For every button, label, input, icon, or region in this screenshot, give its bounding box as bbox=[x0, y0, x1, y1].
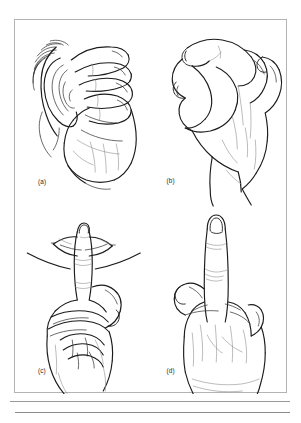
panel-a: (a) bbox=[15, 20, 152, 207]
footer-rule-bottom bbox=[15, 412, 290, 413]
panel-c: (c) bbox=[15, 207, 152, 394]
panel-grid: (a) bbox=[15, 20, 288, 394]
panel-b-label: (b) bbox=[167, 178, 175, 184]
figure-frame: (a) bbox=[14, 19, 287, 393]
panel-d-label: (d) bbox=[167, 368, 175, 374]
figure-page: (a) bbox=[0, 0, 301, 423]
panel-b: (b) bbox=[152, 20, 289, 207]
footer-rule-top bbox=[10, 401, 290, 402]
panel-a-label: (a) bbox=[38, 179, 46, 185]
hand-index-finger-to-lips-icon bbox=[15, 207, 152, 394]
panel-c-label: (c) bbox=[38, 368, 46, 374]
hand-middle-finger-raised-icon bbox=[152, 207, 289, 394]
panel-d: (d) bbox=[152, 207, 289, 394]
hand-cupped-behind-ear-icon bbox=[15, 20, 152, 207]
